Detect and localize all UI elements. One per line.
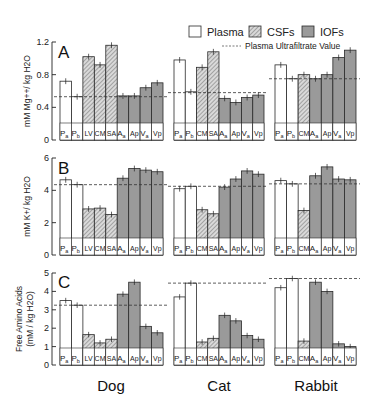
bar-label: CM: [197, 130, 208, 137]
y-axis-label: mM Mg++/ kg H2O: [22, 55, 32, 127]
bar-group-rabbit: PaPbCMAaApVaVp: [269, 164, 360, 255]
bar-group-dog: PaPbLVCMSAAaApVaVp: [54, 42, 167, 140]
y-tick-label: 3: [44, 305, 49, 315]
species-label-cat: Cat: [207, 377, 231, 394]
bar-label: Ap: [232, 245, 241, 253]
figure-canvas: Plasma CSFs IOFs Plasma Ultrafiltrate Va…: [0, 0, 378, 414]
bar-label: Vp: [346, 245, 355, 253]
bar-group-cat: PaPbCMSAAaApVaVp: [168, 168, 268, 255]
y-tick-label: 4: [44, 185, 49, 195]
bar-label: Vp: [346, 355, 355, 363]
bar-label: Ap: [232, 355, 241, 363]
legend-label-csfs: CSFs: [267, 26, 295, 38]
bar-label: SA: [209, 245, 219, 252]
bar-label: SA: [107, 355, 117, 362]
bar-group-dog: PaPbLVCMSAAaApVaVp: [54, 166, 167, 255]
bar-label: CM: [95, 245, 106, 252]
bar-label: CM: [298, 355, 309, 362]
bar-label: SA: [107, 245, 117, 252]
legend-item-plasma: Plasma: [189, 26, 245, 38]
bar-label: Vp: [254, 130, 263, 138]
panel-a: 00.40.81.2AmM Mg++/ kg H2OPaPbLVCMSAAaAp…: [22, 37, 360, 145]
bar-label: CM: [95, 355, 106, 362]
y-tick-label: 2: [44, 218, 49, 228]
bar-label: LV: [85, 355, 93, 362]
panels: 00.40.81.2AmM Mg++/ kg H2OPaPbLVCMSAAaAp…: [14, 37, 360, 370]
panel-c: 012345CFree Amino Acids(mM / kg H2O)PaPb…: [14, 268, 360, 370]
bar-label: CM: [298, 245, 309, 252]
bar-label: Vp: [346, 130, 355, 138]
legend-label-plasma: Plasma: [207, 26, 245, 38]
bar-group-rabbit: PaPbCMAaApVaVp: [269, 47, 360, 140]
legend-item-iofs: IOFs: [302, 26, 344, 38]
legend-item-csfs: CSFs: [249, 26, 295, 38]
bar-label: Ap: [130, 355, 139, 363]
bar-label: Vp: [254, 355, 263, 363]
bar-label: CM: [95, 130, 106, 137]
species-labels: Dog Cat Rabbit: [97, 377, 338, 394]
bar-label: CM: [197, 355, 208, 362]
bar-label: Ap: [232, 130, 241, 138]
bar-label: Ap: [323, 130, 332, 138]
legend-item-ultrafiltrate: Plasma Ultrafiltrate Value: [222, 41, 341, 51]
y-tick-label: 0.8: [36, 70, 49, 80]
panel-letter: B: [58, 159, 69, 178]
bar-group-rabbit: PaPbCMAaApVaVp: [269, 276, 360, 365]
bar-label: SA: [107, 130, 117, 137]
y-tick-label: 4: [44, 286, 49, 296]
plasma-swatch: [189, 26, 201, 37]
panel-b: 0246BmM K+/ kg H2OPaPbLVCMSAAaApVaVpPaPb…: [22, 153, 360, 260]
csf-swatch: [249, 26, 261, 37]
bar-group-cat: PaPbCMSAAaApVaVp: [168, 280, 268, 365]
y-axis-label: Free Amino Acids: [14, 286, 24, 352]
bar-group-dog: PaPbLVCMSAAaApVaVp: [54, 279, 167, 365]
bar-label: Vp: [153, 245, 162, 253]
y-tick-label: 6: [44, 153, 49, 163]
legend: Plasma CSFs IOFs Plasma Ultrafiltrate Va…: [189, 26, 344, 52]
species-label-rabbit: Rabbit: [294, 377, 338, 394]
bar-label: LV: [85, 245, 93, 252]
legend-label-ultrafiltrate: Plasma Ultrafiltrate Value: [245, 41, 341, 51]
bar-group-cat: PaPbCMSAAaApVaVp: [168, 49, 268, 140]
y-tick-label: 0: [44, 135, 49, 145]
bar-label: LV: [85, 130, 93, 137]
species-label-dog: Dog: [97, 377, 125, 394]
panel-letter: A: [58, 43, 70, 62]
bar-label: CM: [197, 245, 208, 252]
bar-label: CM: [298, 130, 309, 137]
y-tick-label: 0: [44, 360, 49, 370]
bar-label: SA: [209, 130, 219, 137]
y-tick-label: 0: [44, 250, 49, 260]
y-tick-label: 5: [44, 268, 49, 278]
iof-swatch: [302, 26, 314, 37]
bar-label: Ap: [130, 130, 139, 138]
y-tick-label: 2: [44, 323, 49, 333]
bar-label: Ap: [323, 355, 332, 363]
y-axis-label-units: (mM / kg H2O): [25, 291, 35, 347]
y-axis-label: mM K+/ kg H2O: [22, 176, 32, 237]
bar-label: Vp: [153, 355, 162, 363]
bar-label: Ap: [130, 245, 139, 253]
y-tick-label: 1.2: [36, 37, 49, 47]
bar-label: Vp: [153, 130, 162, 138]
y-tick-label: 0.4: [36, 102, 49, 112]
bar-label: Vp: [254, 245, 263, 253]
y-tick-label: 1: [44, 342, 49, 352]
legend-label-iofs: IOFs: [320, 26, 344, 38]
bar-label: Ap: [323, 245, 332, 253]
bar-label: SA: [209, 355, 219, 362]
panel-letter: C: [58, 273, 70, 292]
